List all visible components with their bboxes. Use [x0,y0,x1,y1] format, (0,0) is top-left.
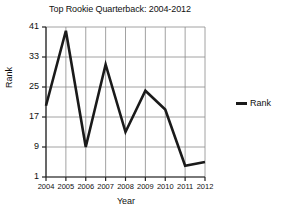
x-axis-title: Year [46,196,206,206]
legend-line-swatch-icon [236,102,247,105]
legend-entry-label: Rank [250,98,271,108]
chart-legend: Rank [236,98,271,108]
x-tick-label: 2005 [55,182,77,191]
y-tick-label: 9 [17,141,39,151]
x-tick-label: 2007 [95,182,117,191]
x-tick-label: 2008 [115,182,137,191]
chart-container: Top Rookie Quarterback: 2004-2012 Rank Y… [0,0,291,219]
tick-marks [42,27,205,181]
x-tick-label: 2010 [154,182,176,191]
x-tick-label: 2012 [194,182,216,191]
y-tick-label: 25 [17,81,39,91]
y-tick-label: 41 [17,21,39,31]
y-tick-label: 1 [17,171,39,181]
x-tick-label: 2004 [35,182,57,191]
y-axis-title: Rank [4,67,14,88]
y-tick-label: 17 [17,111,39,121]
x-tick-label: 2006 [75,182,97,191]
y-tick-label: 33 [17,51,39,61]
x-tick-label: 2009 [134,182,156,191]
x-tick-label: 2011 [174,182,196,191]
